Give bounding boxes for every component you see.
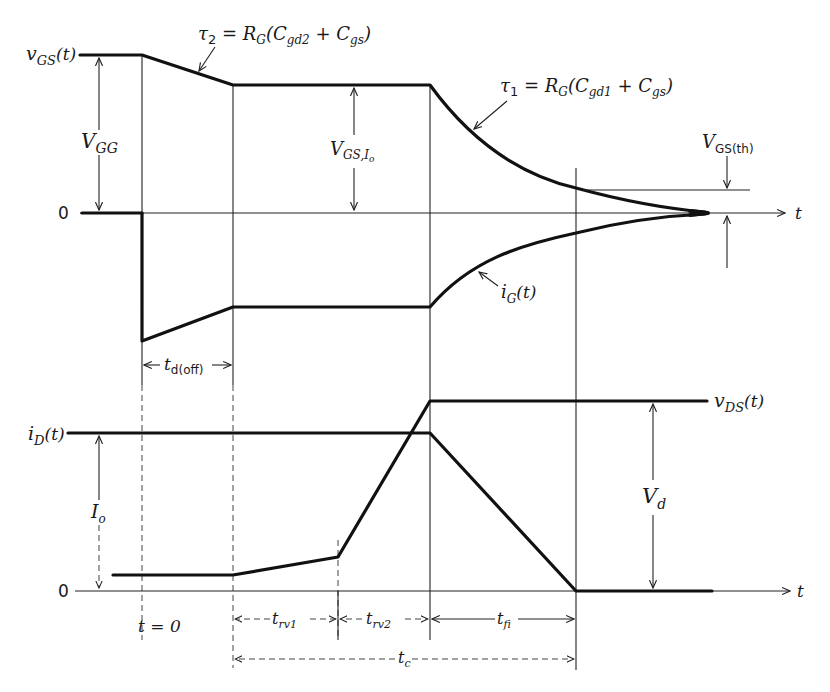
bottom-panel: t 0 iD(t) vDS(t) Io Vd t = 0 trv1 trv2 t… bbox=[28, 389, 804, 670]
tau1-pointer bbox=[474, 101, 507, 129]
vth-label: VGS(th) bbox=[702, 131, 754, 156]
ig-pointer bbox=[479, 272, 498, 286]
t-axis-label-bottom: t bbox=[797, 581, 804, 601]
tau1-label: τ1 = RG(Cgd1 + Cgs) bbox=[500, 75, 673, 99]
zero-label-top: 0 bbox=[58, 203, 69, 223]
id-label: iD(t) bbox=[28, 422, 65, 448]
trv2-label: trv2 bbox=[366, 609, 391, 631]
vgg-label: VGG bbox=[81, 129, 118, 156]
vds-label: vDS(t) bbox=[714, 389, 764, 415]
t-axis-label-top: t bbox=[795, 203, 802, 223]
vds-waveform bbox=[113, 401, 707, 575]
tfi-label: tfi bbox=[497, 609, 511, 631]
ig-label: iG(t) bbox=[501, 281, 536, 306]
zero-label-bottom: 0 bbox=[58, 581, 69, 601]
tau2-pointer bbox=[199, 47, 215, 71]
tau2-label: τ2 = RG(Cgd2 + Cgs) bbox=[198, 23, 371, 47]
id-waveform bbox=[68, 433, 712, 591]
trv1-label: trv1 bbox=[272, 609, 297, 631]
tc-label: tc bbox=[398, 648, 411, 670]
tdoff-label: td(off) bbox=[164, 354, 203, 377]
t0-label: t = 0 bbox=[138, 616, 181, 636]
switching-waveform-diagram: t 0 vGS(t) VGG VGS,Io τ2 = RG(Cgd2 + Cgs… bbox=[0, 0, 830, 692]
vgsio-label: VGS,Io bbox=[330, 138, 375, 164]
io-label: Io bbox=[90, 500, 106, 526]
vgs-label: vGS(t) bbox=[26, 42, 76, 68]
ig-waveform bbox=[142, 213, 705, 341]
vd-label: Vd bbox=[642, 484, 666, 512]
